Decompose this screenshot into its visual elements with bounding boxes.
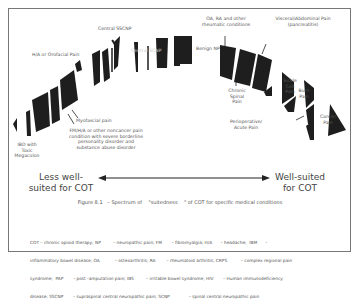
direction-arrow	[98, 175, 270, 181]
segment-burn-3	[306, 120, 314, 140]
segment-ha-1	[92, 50, 100, 86]
label-visceral: Visceral/Abdominal Pain (pancreatitis)	[268, 16, 338, 27]
arrow-left-head	[98, 175, 106, 181]
segment-left-4	[75, 60, 82, 72]
label-myofascial: Myofascial pain	[76, 118, 112, 124]
label-oa-ra: OA, RA and other rheumatic conditions	[196, 16, 256, 27]
segment-fibro	[114, 36, 120, 70]
segment-left-1	[32, 92, 50, 132]
label-ibd-toxic-megacolon: IBD with Toxic Megacolon	[14, 142, 40, 159]
segment-ibd-tip	[13, 118, 17, 132]
segment-central-scnp	[134, 42, 138, 72]
segment-benign-np	[180, 36, 192, 64]
segment-oa-ra	[220, 45, 236, 80]
label-chronic-spinal: Chronic Spinal Pain	[226, 88, 248, 105]
label-perioperative: Perioperative/ Acute Pain	[226, 119, 266, 130]
abbreviation-legend: COT – chronic opioid therapy; NP – neuro…	[30, 228, 330, 303]
label-central-sscnp: Central SSCNP	[98, 26, 131, 32]
well-suited-label: Well-suited for COT	[270, 172, 330, 194]
segment-right-3	[252, 54, 272, 92]
arrow-right-head	[262, 175, 270, 181]
legend-line-3: syndrome; PAP – post -amputation pain; I…	[30, 276, 330, 282]
less-well-suited-label: Less well-suited for COT	[28, 172, 94, 194]
legend-line-2: inflammatory bowel disease; OA – osteoar…	[30, 258, 330, 264]
label-burn: Burn Pain	[296, 88, 312, 99]
segment-left-2	[50, 86, 60, 124]
label-central-scnp: Central SCNP	[131, 48, 162, 54]
label-ha-orofacial: H/A or Orofacial Pain	[32, 52, 79, 58]
label-cancer: Cancer Pain	[318, 114, 338, 125]
figure-caption: Figure 8.1 – Spectrum of "suitedness " o…	[0, 199, 360, 205]
segment-ha-2	[102, 48, 110, 82]
label-benign-np: Benign NP	[196, 46, 220, 52]
legend-line-1: COT – chronic opioid therapy; NP – neuro…	[30, 240, 330, 246]
segment-left-3	[60, 70, 78, 110]
segment-ibd	[26, 110, 31, 136]
legend-line-4: disease; SSCNP – supraspinal central neu…	[30, 294, 330, 300]
label-fm-ha-personality: FM/H/A or other noncancer pain condition…	[66, 128, 146, 150]
segment-right-2	[234, 49, 256, 86]
segment-center-2	[174, 36, 180, 66]
